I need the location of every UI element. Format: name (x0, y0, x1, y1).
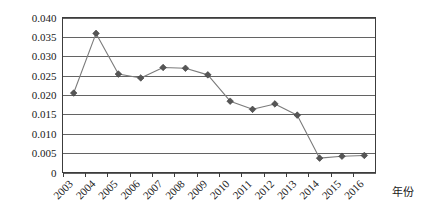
chart-canvas: 00.0050.0100.0150.0200.0250.0300.0350.04… (0, 0, 439, 214)
y-tick-label: 0.010 (32, 128, 57, 140)
y-tick-label: 0 (51, 167, 57, 179)
y-tick-label: 0.030 (32, 50, 57, 62)
y-tick-label: 0.005 (32, 147, 57, 159)
line-chart: 00.0050.0100.0150.0200.0250.0300.0350.04… (0, 0, 439, 214)
y-tick-label: 0.040 (32, 12, 57, 24)
y-tick-label: 0.035 (32, 31, 57, 43)
x-axis-title: 年份 (392, 185, 414, 198)
y-axis-tick-labels: 00.0050.0100.0150.0200.0250.0300.0350.04… (32, 12, 57, 179)
y-tick-label: 0.025 (32, 70, 57, 82)
y-tick-label: 0.020 (32, 89, 57, 101)
y-tick-label: 0.015 (32, 108, 57, 120)
